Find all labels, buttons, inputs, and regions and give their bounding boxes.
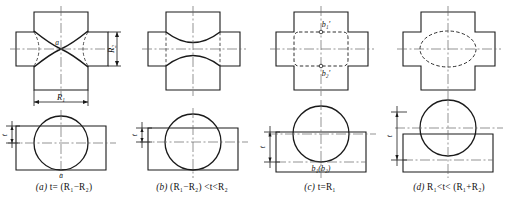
figure-tag-d: (d) bbox=[413, 182, 424, 192]
figure-caption-text-d: R₁<t< (R₁+R₂) bbox=[427, 182, 485, 192]
figure-c-drawing: b₁′ b₂′ b₁(b₂) t bbox=[256, 0, 384, 182]
dimension-t-label-d: t bbox=[385, 134, 394, 137]
dimension-t-label-a: t bbox=[0, 133, 9, 136]
dimension-t-label-b: t bbox=[130, 133, 139, 136]
point-marker-b2-prime bbox=[319, 64, 323, 68]
dimension-r2-label-a: R₂ bbox=[106, 45, 116, 54]
dimension-r1-label-a: R₁ bbox=[56, 92, 65, 102]
point-label-b1-b2: b₁(b₂) bbox=[312, 164, 331, 173]
figure-tag-b: (b) bbox=[156, 182, 167, 192]
point-marker-b1-prime bbox=[319, 30, 323, 34]
figure-caption-c: (c) t=R₁ bbox=[256, 182, 384, 192]
centerlines-bottom-d bbox=[395, 96, 503, 178]
centerlines-d bbox=[397, 6, 501, 96]
figure-tag-c: (c) bbox=[304, 182, 315, 192]
engineering-drawing-sheet: a R₂ R₁ bbox=[0, 0, 514, 214]
dimension-t-label-c: t bbox=[258, 145, 267, 148]
figure-caption-b: (b) (R₁−R₂) <t<R₂ bbox=[128, 182, 256, 192]
centerlines-bottom-a bbox=[8, 110, 116, 178]
figure-caption-text-a: t= (R₁−R₂) bbox=[50, 182, 92, 192]
centerlines-a bbox=[10, 6, 114, 96]
figure-d-drawing: t bbox=[385, 0, 514, 182]
figure-panel-d: t (d) R₁<t< (R₁+R₂) bbox=[385, 0, 513, 214]
figure-tag-a: (a) bbox=[36, 182, 47, 192]
figure-caption-d: (d) R₁<t< (R₁+R₂) bbox=[385, 182, 513, 192]
cross-outline-d bbox=[403, 12, 495, 90]
point-label-b2-prime: b₂′ bbox=[322, 69, 331, 78]
figure-caption-a: (a) t= (R₁−R₂) bbox=[0, 182, 128, 192]
cross-outline-b bbox=[148, 12, 240, 90]
figure-panel-a: a R₂ R₁ bbox=[0, 0, 128, 214]
centerlines-b bbox=[142, 6, 246, 96]
figure-caption-text-c: t=R₁ bbox=[318, 182, 336, 192]
point-label-b1-prime: b₁′ bbox=[322, 20, 331, 29]
figure-caption-text-b: (R₁−R₂) <t<R₂ bbox=[170, 182, 228, 192]
figure-panel-c: b₁′ b₂′ b₁(b₂) t bbox=[256, 0, 384, 214]
cross-outline-a bbox=[16, 12, 108, 90]
point-label-a-top: a bbox=[55, 38, 59, 47]
figure-a-drawing: a R₂ R₁ bbox=[0, 0, 128, 182]
centerlines-bottom-b bbox=[140, 108, 248, 178]
figure-panel-b: t (b) (R₁−R₂) <t<R₂ bbox=[128, 0, 256, 214]
figure-b-drawing: t bbox=[128, 0, 256, 182]
point-label-a-bottom: a bbox=[59, 171, 63, 180]
